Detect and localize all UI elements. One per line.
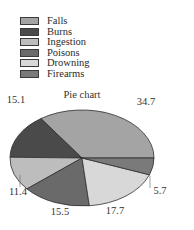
value-label-burns: 15.1 [7, 94, 25, 105]
pie-chart: Pie chart 34.715.111.415.517.75.7 [0, 0, 194, 230]
value-label-firearms: 5.7 [153, 185, 166, 196]
value-label-drowning: 17.7 [106, 205, 124, 216]
value-label-poisons: 15.5 [51, 206, 69, 217]
pie-slices [10, 110, 154, 206]
value-label-ingestion: 11.4 [9, 186, 28, 197]
value-label-falls: 34.7 [137, 96, 155, 107]
chart-title: Pie chart [63, 89, 100, 100]
